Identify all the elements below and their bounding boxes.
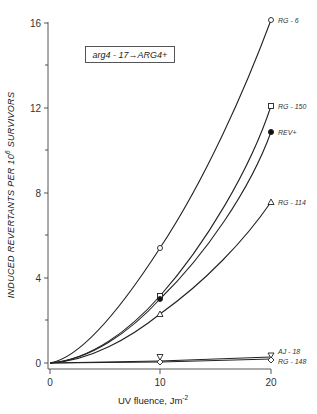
y-axis: 16 12 8 4 0: [30, 18, 48, 370]
x-tick-0: 0: [47, 377, 53, 388]
marker-rg6-10: [158, 246, 163, 251]
genotype-annotation: arg4 - 17→ARG4+: [86, 47, 175, 63]
curve-rg114: [50, 202, 271, 363]
label-rev: REV+: [278, 129, 296, 136]
y-tick-4: 4: [35, 273, 41, 284]
x-tick-20: 20: [265, 377, 277, 388]
svg-text:arg4 - 17→ARG4+: arg4 - 17→ARG4+: [93, 50, 168, 60]
marker-rg150-20: [269, 104, 274, 109]
label-rg150: RG - 150: [278, 103, 307, 110]
marker-rg148-10: [157, 359, 163, 365]
marker-rev-10: [158, 297, 163, 302]
x-axis-title: UV fluence, Jm-2: [118, 394, 189, 406]
y-tick-0: 0: [35, 358, 41, 369]
uv-fluence-chart: 16 12 8 4 0 0 10 20 UV fluence, Jm-2 IND…: [0, 0, 317, 414]
y-axis-title: INDUCED REVERTANTS PER 106 SURVIVORS: [4, 92, 16, 298]
markers: [157, 18, 274, 366]
marker-rg114-20: [268, 199, 274, 205]
label-aj18: AJ - 18: [277, 348, 300, 355]
x-axis: 0 10 20: [47, 369, 277, 388]
y-tick-8: 8: [35, 188, 41, 199]
label-rg148: RG - 148: [278, 358, 307, 365]
marker-rev-20: [268, 129, 273, 134]
marker-rg6-20: [269, 18, 274, 23]
label-rg6: RG - 6: [278, 17, 299, 24]
y-tick-12: 12: [30, 103, 42, 114]
marker-rg148-20: [268, 357, 274, 363]
curve-rg150: [50, 106, 271, 363]
x-tick-10: 10: [154, 377, 166, 388]
label-rg114: RG - 114: [278, 199, 306, 206]
y-tick-16: 16: [30, 18, 42, 29]
